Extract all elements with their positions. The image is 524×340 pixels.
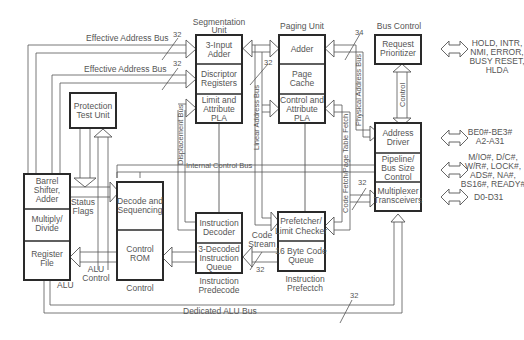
predecode-title: InstructionPredecode <box>198 276 239 295</box>
data-signals: D0-D31 <box>474 192 504 202</box>
control-rom-label: ControlROM <box>126 244 154 263</box>
eab1-label: Effective Address Bus <box>86 33 169 43</box>
external-address-arrow <box>441 130 468 146</box>
control-title: Control <box>126 283 154 293</box>
three-input-adder-label: 3-InputAdder <box>206 40 233 59</box>
code-fetch-bus-label: Code Fetch/Page Table Fetch <box>341 114 350 213</box>
request-prioritizer-label: RequestPrioritizer <box>380 39 416 58</box>
linear-width: 32 <box>264 58 272 67</box>
prioritizer-signals: HOLD, INTR,NMI, ERROR,BUSY RESET,HLDA <box>469 38 524 75</box>
architecture-diagram: SegmentationUnit Paging Unit Bus Control… <box>0 0 524 340</box>
bus-control-title: Bus Control <box>377 21 422 31</box>
protection-to-alu-arrow <box>74 128 96 187</box>
internal-control-bus <box>117 160 402 178</box>
queue-to-rom-arrow <box>162 247 196 267</box>
dedicated-alu-width: 32 <box>350 291 358 300</box>
barrel-shifter-label: BarrelShifter,Adder <box>34 176 60 204</box>
control-bus-label: Control <box>398 82 407 107</box>
physical-address-bus <box>325 34 379 141</box>
decode-sequencing-label: Decode andSequencing <box>117 196 163 215</box>
pipeline-signals: M/IO#, D/C#,W/R#, LOCK#,ADS#, NA#,BS16#,… <box>461 152 524 189</box>
mux-width: 32 <box>358 178 366 187</box>
external-prioritizer-arrow <box>441 41 468 57</box>
multiply-divide-label: Multiply/Divide <box>31 214 63 233</box>
prefetcher-label: Prefetcher/Limit Checker <box>275 216 327 236</box>
prefetch-title: InstructionPrefectch <box>285 274 324 293</box>
descriptor-registers-label: DiscriptorRegisters <box>201 69 237 88</box>
eab2-width: 32 <box>173 59 181 68</box>
status-flags-label: StatusFlags <box>71 197 95 216</box>
page-cache-label: PageCache <box>290 69 315 88</box>
instruction-decoder-label: InstructionDecoder <box>199 218 238 237</box>
code-stream-label: CodeStream <box>248 230 275 249</box>
code-stream-width: 32 <box>256 265 264 274</box>
linear-address-bus <box>243 40 279 231</box>
address-driver-label: AddressDriver <box>382 128 413 147</box>
alu-label: ALU <box>57 280 74 290</box>
linear-address-bus-label: Linear Address Bus <box>252 85 261 150</box>
code-fetch-bus <box>325 100 379 235</box>
eab1-width: 32 <box>173 30 181 39</box>
physical-width: 34 <box>355 28 363 37</box>
address-signals: BE0#-BE3#A2-A31 <box>468 127 513 146</box>
segmentation-title: SegmentationUnit <box>193 17 246 35</box>
physical-address-bus-label: Physical Address Bus <box>354 54 363 126</box>
pipeline-label: Pipeline/Bus SizeControl <box>381 154 415 182</box>
paging-adder-label: Adder <box>291 44 314 54</box>
internal-control-bus-label: Internal Control Bus <box>186 161 253 170</box>
dedicated-alu-bus-label: Dedicated ALU Bus <box>183 306 257 316</box>
external-data-arrow <box>441 189 468 205</box>
paging-title: Paging Unit <box>280 21 325 31</box>
eab2-label: Effective Address Bus <box>84 64 167 74</box>
alu-control-label: ALUControl <box>82 264 110 283</box>
protection-label: ProtectionTest Unit <box>74 101 113 120</box>
to-protection-up-arrow <box>94 129 112 270</box>
multiplexer-label: MultiplexerTransceivers <box>374 186 422 205</box>
displacement-bus-label: Displacement Bus <box>176 104 185 165</box>
